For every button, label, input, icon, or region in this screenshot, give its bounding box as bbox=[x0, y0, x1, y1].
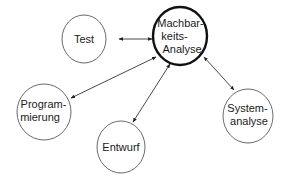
node-programmierung[interactable]: Program- mierung bbox=[17, 84, 71, 140]
node-entwurf[interactable]: Entwurf bbox=[97, 121, 145, 173]
node-systemanalyse-label: System- analyse bbox=[227, 102, 270, 127]
node-test-label: Test bbox=[74, 33, 94, 45]
edge-systemanalyse-machbarkeitsanalyse bbox=[204, 57, 234, 90]
edge-entwurf-machbarkeitsanalyse bbox=[133, 64, 170, 122]
diagram-canvas: Machbar- keits- Analyse Test Program- mi… bbox=[0, 0, 294, 183]
node-test[interactable]: Test bbox=[62, 15, 106, 63]
node-machbarkeitsanalyse[interactable]: Machbar- keits- Analyse bbox=[153, 7, 207, 65]
node-systemanalyse[interactable]: System- analyse bbox=[223, 89, 273, 143]
node-entwurf-label: Entwurf bbox=[102, 141, 140, 153]
